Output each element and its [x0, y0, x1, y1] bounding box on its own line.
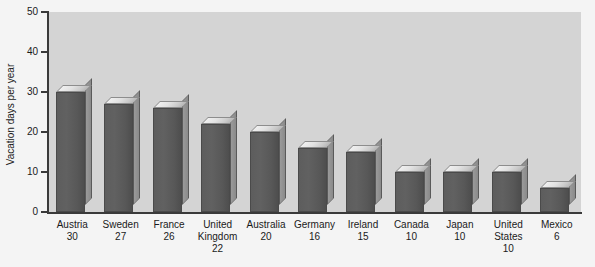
bar-chart: Vacation days per year 01020304050 Austr… — [0, 0, 595, 267]
x-label-value: 10 — [478, 243, 538, 255]
y-tick-label: 30 — [14, 87, 38, 97]
y-tick-40 — [41, 51, 48, 53]
y-tick-20 — [41, 131, 48, 133]
x-label-text: Mexico — [527, 219, 587, 231]
x-label-value: 6 — [527, 231, 587, 243]
x-label-value: 22 — [188, 243, 248, 255]
plot-area — [48, 12, 581, 212]
y-tick-label: 10 — [14, 167, 38, 177]
y-tick-label: 0 — [14, 207, 38, 217]
y-tick-0 — [41, 211, 48, 213]
x-label-mexico: Mexico6 — [527, 219, 587, 243]
y-tick-label: 50 — [14, 7, 38, 17]
y-tick-50 — [41, 11, 48, 13]
y-tick-30 — [41, 91, 48, 93]
y-tick-10 — [41, 171, 48, 173]
y-tick-label: 40 — [14, 47, 38, 57]
y-axis-title: Vacation days per year — [3, 7, 19, 222]
y-axis-line — [47, 11, 49, 213]
y-tick-label: 20 — [14, 127, 38, 137]
x-axis-line — [47, 212, 582, 214]
